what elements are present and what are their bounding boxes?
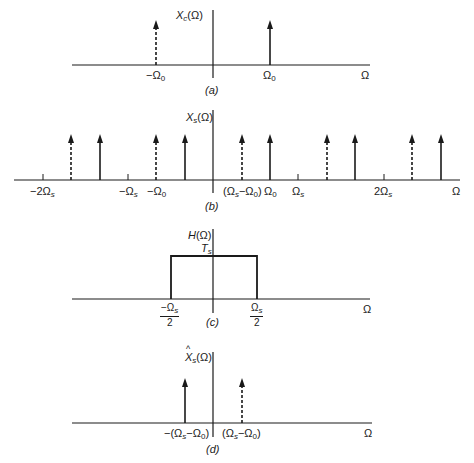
tick-label-omega-s: Ωs <box>292 186 304 199</box>
tick-main: −Ω <box>119 185 134 197</box>
panel-a-y-label: Xc(Ω) <box>176 10 203 23</box>
tick-label-minus-omega-s: −Ωs <box>119 186 138 199</box>
impulse-solid <box>182 378 188 423</box>
fraction-denominator: 2 <box>160 317 179 328</box>
panel-c-plot <box>72 229 370 313</box>
impulse-dashed <box>409 134 415 180</box>
y-label-arg: (Ω) <box>196 351 212 363</box>
tick-label-minus-omega-0: −Ω0 <box>147 186 166 199</box>
figure-canvas <box>0 0 474 463</box>
x-hat: ^X <box>185 352 192 363</box>
tick-sub: 0 <box>162 190 166 199</box>
hat-accent: ^ <box>186 345 190 354</box>
tick-main: Ω <box>264 185 272 197</box>
panel-d-caption: (d) <box>206 443 219 455</box>
panel-d-plot <box>72 352 372 437</box>
tick-sub: 0 <box>161 74 165 83</box>
impulse-dashed <box>68 134 74 180</box>
tick-part: ) <box>257 427 261 439</box>
gain-sub: s <box>208 247 212 256</box>
tick-part: ) <box>205 427 209 439</box>
tick-label-omega-0: Ω0 <box>263 70 276 83</box>
panel-c-y-label: H(Ω) <box>188 230 212 241</box>
y-label-arg: (Ω) <box>196 229 212 241</box>
fraction-denominator: 2 <box>250 317 263 328</box>
edge-label-omega-s-over-2: Ωs 2 <box>250 303 263 328</box>
edge-label-minus-omega-s-over-2: −Ωs 2 <box>160 303 179 328</box>
panel-d-x-label: Ω <box>364 428 372 439</box>
lowpass-filter-rect <box>171 256 257 299</box>
tick-sub: 0 <box>271 74 275 83</box>
tick-label-omega-s-minus-omega-0: (Ωs−Ω0) <box>222 428 261 441</box>
passband-gain-label: Ts <box>201 243 212 256</box>
panel-a-caption: (a) <box>205 84 218 96</box>
impulse-solid <box>267 134 273 180</box>
y-label-arg: (Ω) <box>197 111 213 123</box>
tick-sub: 0 <box>272 190 276 199</box>
tick-part: −Ω <box>238 427 253 439</box>
tick-main: Ω <box>292 185 300 197</box>
tick-part: ) <box>258 185 262 197</box>
fraction-numerator: Ωs <box>250 303 263 317</box>
tick-sub: s <box>300 190 304 199</box>
num-sub: s <box>174 306 178 315</box>
impulse-dashed <box>239 134 245 180</box>
tick-part: (Ω <box>222 427 234 439</box>
tick-label-minus-omega-0: −Ω0 <box>146 70 165 83</box>
tick-sub: s <box>51 190 55 199</box>
num-sub: s <box>258 306 262 315</box>
impulse-solid <box>352 134 358 180</box>
panel-b-plot <box>14 110 460 193</box>
tick-part: −Ω <box>186 427 201 439</box>
panel-b-x-label: Ω <box>452 186 460 197</box>
num-main: −Ω <box>161 302 174 313</box>
impulse-solid <box>267 20 273 65</box>
tick-main: Ω <box>263 69 271 81</box>
impulse-dashed <box>324 134 330 180</box>
panel-c-caption: (c) <box>206 316 219 328</box>
panel-b-caption: (b) <box>205 200 218 212</box>
y-label-arg: (Ω) <box>187 9 203 21</box>
tick-part: −Ω <box>239 185 254 197</box>
tick-main: −Ω <box>147 185 162 197</box>
tick-label-2-omega-s: 2Ωs <box>374 186 392 199</box>
panel-c-x-label: Ω <box>363 304 371 315</box>
tick-label-omega-0: Ω0 <box>264 186 277 199</box>
tick-sub: s <box>134 190 138 199</box>
tick-main: −2Ω <box>30 185 51 197</box>
panel-d-y-label: ^Xs(Ω) <box>185 352 212 365</box>
tick-part: (Ω <box>223 185 235 197</box>
panel-a-plot <box>72 10 370 78</box>
tick-part: −(Ω <box>164 427 182 439</box>
impulse-solid <box>97 134 103 180</box>
tick-main: 2Ω <box>374 185 388 197</box>
panel-a-x-label: Ω <box>361 70 369 81</box>
panel-b-y-label: Xs(Ω) <box>186 112 213 125</box>
y-label-main: H <box>188 229 196 241</box>
impulse-dashed <box>239 378 245 423</box>
tick-label-minus-2-omega-s: −2Ωs <box>30 186 55 199</box>
tick-sub: s <box>388 190 392 199</box>
impulse-dashed <box>153 20 159 65</box>
impulse-solid <box>182 134 188 180</box>
tick-label-minus-omega-s-minus-omega-0: −(Ωs−Ω0) <box>164 428 209 441</box>
impulse-dashed <box>153 134 159 180</box>
gain-main: T <box>201 242 208 254</box>
impulse-solid <box>438 134 444 180</box>
fraction-numerator: −Ωs <box>160 303 179 317</box>
tick-main: −Ω <box>146 69 161 81</box>
tick-label-omega-s-minus-omega-0: (Ωs−Ω0) <box>223 186 262 199</box>
